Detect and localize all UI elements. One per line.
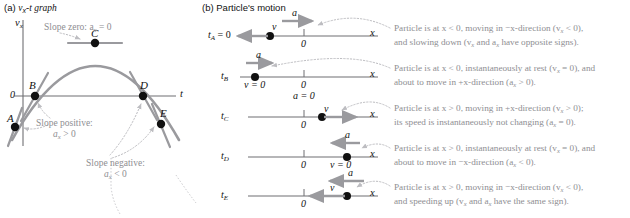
description-C: Particle is at x > 0, moving in +x-direc… [394,102,583,130]
time-label-C: tC [221,110,228,123]
axis-label-x-C: x [370,108,375,120]
axis-label-x-B: x [370,68,375,80]
origin-label-E: 0 [301,198,306,210]
origin-label-A: 0 [301,38,306,50]
vector-label-v-B: v = 0 [244,79,265,91]
vector-label-a-D: a [345,129,350,141]
x-axis-label: t [180,88,183,100]
description-B: Particle is at x < 0, instantaneously at… [394,62,595,90]
time-label-E: tE [221,189,228,202]
description-A: Particle is at x < 0, moving in −x-direc… [394,22,583,50]
origin-label-D: 0 [301,159,306,171]
point-A-label: A [7,112,14,125]
point-E-label: E [160,107,167,120]
vector-label-a-B: a [256,49,261,61]
time-label-D: tD [221,150,229,163]
vector-label-a-A: a [292,7,297,19]
graph-origin-label: 0 [10,89,15,101]
vector-label-v-E: v [330,182,334,194]
time-label-B: tB [221,70,228,83]
point-D-label: D [140,79,148,92]
time-label-A: tA = 0 [208,29,231,42]
y-axis-label: vx [15,17,23,30]
axis-label-x-E: x [370,187,375,199]
vector-label-v-C: v [324,103,328,115]
vector-label-a-E: a [348,167,353,179]
description-E: Particle is at x > 0, moving in −x-direc… [394,181,583,209]
origin-label-C: 0 [301,119,306,131]
vector-label-a-C: a = 0 [293,90,315,102]
point-C-marker [91,39,99,47]
annotation-slope-negative: Slope negative: ax < 0 [86,158,145,181]
description-D: Particle is at x > 0, instantaneously at… [394,142,595,170]
point-B-marker [31,92,39,100]
point-E-marker [157,120,165,128]
point-D-marker [139,92,147,100]
vector-label-v-A: v [272,21,276,33]
annotation-slope-positive: Slope positive: ax > 0 [36,118,93,141]
axis-label-x-D: x [370,148,375,160]
point-B-label: B [29,79,36,92]
annotation-slope-zero: Slope zero: ax = 0 [44,22,111,34]
axis-label-x-A: x [370,27,375,39]
figure-root: (a) vx-t graph (b) Particle's motion [0,0,630,218]
